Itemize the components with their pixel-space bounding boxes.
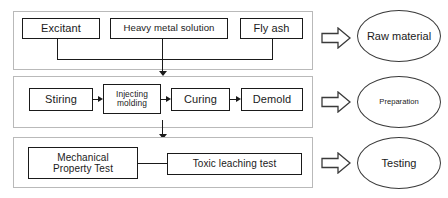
block-arrow-right-icon-preparation [321, 91, 351, 113]
node-heavy-metal-solution[interactable]: Heavy metal solution [110, 18, 228, 39]
stage-label-raw-material-text: Raw material [367, 30, 431, 43]
flowchart-diagram: Excitant Heavy metal solution Fly ash Ra… [0, 0, 448, 198]
node-toxic-leaching-test-label: Toxic leaching test [191, 158, 279, 169]
node-mechanical-property-test-label: Mechanical Property Test [51, 152, 115, 174]
connector-fly-ash-stub [272, 39, 273, 60]
node-demold-label: Demold [251, 93, 294, 105]
block-arrow-right-icon-raw-material [321, 27, 351, 49]
connector-mechanical-to-toxic [138, 163, 167, 164]
node-heavy-metal-solution-label: Heavy metal solution [121, 23, 216, 34]
node-injecting-molding[interactable]: Injecting molding [103, 84, 161, 114]
node-fly-ash[interactable]: Fly ash [240, 18, 303, 39]
connector-raw-material-bus [57, 59, 273, 60]
node-stiring-label: Stiring [43, 93, 79, 105]
block-arrow-right-icon-testing [321, 152, 351, 174]
node-excitant[interactable]: Excitant [22, 18, 100, 39]
stage-label-preparation: Preparation [357, 76, 441, 128]
connector-injecting-to-curing-arrowhead [166, 96, 171, 102]
node-injecting-molding-label: Injecting molding [114, 90, 150, 109]
node-curing[interactable]: Curing [171, 88, 230, 111]
connector-stiring-to-injecting-arrowhead [98, 96, 103, 102]
stage-label-raw-material: Raw material [357, 10, 441, 62]
node-mechanical-property-test-label-line1: Mechanical [57, 152, 109, 163]
node-stiring[interactable]: Stiring [29, 88, 93, 111]
stage-label-preparation-text: Preparation [379, 98, 418, 107]
node-injecting-molding-label-line2: molding [117, 98, 147, 108]
node-excitant-label: Excitant [39, 22, 83, 34]
node-fly-ash-label: Fly ash [251, 22, 291, 34]
connector-curing-to-demold-arrowhead [236, 96, 241, 102]
connector-trunk-stage1-to-stage2 [162, 39, 163, 73]
connector-excitant-stub [57, 39, 58, 60]
node-toxic-leaching-test[interactable]: Toxic leaching test [167, 153, 302, 175]
node-curing-label: Curing [182, 93, 219, 105]
node-mechanical-property-test-label-line2: Property Test [53, 163, 113, 174]
node-mechanical-property-test[interactable]: Mechanical Property Test [28, 147, 138, 179]
stage-label-testing: Testing [357, 137, 441, 189]
node-demold[interactable]: Demold [241, 88, 303, 111]
stage-label-testing-text: Testing [382, 157, 417, 170]
